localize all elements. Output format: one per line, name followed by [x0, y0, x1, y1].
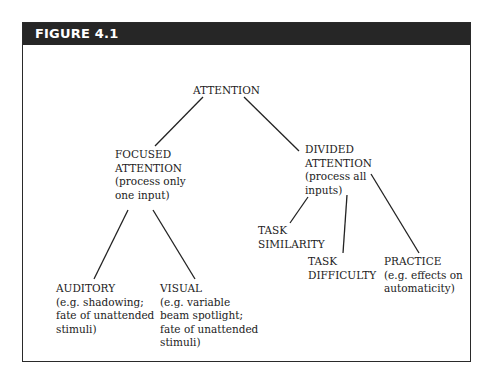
node-attention-title: ATTENTION	[193, 84, 260, 98]
node-task-similarity-title-2: SIMILARITY	[258, 238, 325, 252]
node-divided-desc-1: (process all	[305, 170, 372, 184]
node-focused-title-1: FOCUSED	[115, 148, 186, 162]
node-auditory-desc-2: fate of unattended	[56, 309, 154, 323]
node-task-difficulty-title-2: DIFFICULTY	[308, 269, 376, 283]
node-focused-title-2: ATTENTION	[115, 162, 186, 176]
node-practice-desc-1: (e.g. effects on	[384, 269, 463, 283]
node-auditory-title: AUDITORY	[56, 282, 154, 296]
figure-header: FIGURE 4.1	[23, 23, 470, 45]
figure-label: FIGURE 4.1	[35, 26, 118, 41]
node-practice: PRACTICE (e.g. effects on automaticity)	[384, 255, 463, 296]
node-divided-desc-2: inputs)	[305, 184, 372, 198]
node-visual-desc-1: (e.g. variable	[160, 296, 258, 310]
node-auditory-desc-3: stimuli)	[56, 323, 154, 337]
node-attention: ATTENTION	[193, 84, 260, 98]
node-practice-title: PRACTICE	[384, 255, 463, 269]
node-task-difficulty: TASK DIFFICULTY	[308, 255, 376, 282]
node-practice-desc-2: automaticity)	[384, 282, 463, 296]
node-task-difficulty-title-1: TASK	[308, 255, 376, 269]
node-task-similarity-title-1: TASK	[258, 224, 325, 238]
node-focused-desc-2: one input)	[115, 189, 186, 203]
node-visual-desc-2: beam spotlight;	[160, 309, 258, 323]
node-auditory-desc-1: (e.g. shadowing;	[56, 296, 154, 310]
node-divided-title-1: DIVIDED	[305, 143, 372, 157]
node-auditory: AUDITORY (e.g. shadowing; fate of unatte…	[56, 282, 154, 336]
node-divided-attention: DIVIDED ATTENTION (process all inputs)	[305, 143, 372, 197]
node-visual: VISUAL (e.g. variable beam spotlight; fa…	[160, 282, 258, 350]
node-visual-desc-3: fate of unattended	[160, 323, 258, 337]
node-visual-desc-4: stimuli)	[160, 336, 258, 350]
node-divided-title-2: ATTENTION	[305, 157, 372, 171]
node-visual-title: VISUAL	[160, 282, 258, 296]
node-task-similarity: TASK SIMILARITY	[258, 224, 325, 251]
node-focused-attention: FOCUSED ATTENTION (process only one inpu…	[115, 148, 186, 202]
node-focused-desc-1: (process only	[115, 175, 186, 189]
